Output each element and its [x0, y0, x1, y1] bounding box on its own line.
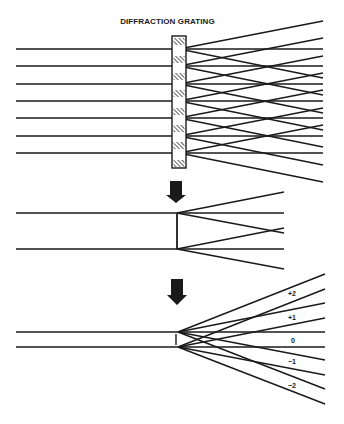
diffracted-ray: [178, 347, 325, 375]
order-label: −2: [288, 382, 296, 389]
diffracted-ray: [177, 192, 284, 213]
double-slit-diagram: [16, 192, 284, 269]
diffracted-ray: [179, 153, 323, 182]
diffracted-ray: [178, 274, 325, 332]
diffracted-ray: [177, 228, 284, 249]
down-arrow-icon: [166, 181, 186, 203]
grating-bar: [174, 108, 185, 115]
grating-bar: [174, 142, 185, 149]
grating-bar: [174, 90, 185, 97]
order-label: +2: [288, 290, 296, 297]
grating-bar: [174, 73, 185, 80]
figure-title: DIFFRACTION GRATING: [100, 17, 235, 26]
diffracted-ray: [179, 84, 323, 113]
grating-bar: [174, 160, 185, 167]
diffracted-ray: [179, 73, 323, 101]
diffracted-ray: [177, 213, 284, 233]
down-arrow-icon: [167, 279, 187, 305]
diffracted-ray: [179, 49, 323, 78]
diffracted-ray: [179, 38, 323, 66]
diffracted-ray: [179, 136, 323, 165]
diffracted-ray: [179, 90, 323, 118]
diffracted-ray: [178, 289, 325, 347]
grating-diagram: [16, 21, 323, 182]
order-label: 0: [291, 337, 295, 344]
diffraction-orders-diagram: [16, 274, 325, 404]
diffraction-grating-block: [172, 36, 186, 168]
grating-bar: [174, 56, 185, 63]
grating-bar: [174, 38, 185, 45]
diffracted-ray: [179, 125, 323, 153]
order-label: +1: [288, 314, 296, 321]
diffracted-ray: [177, 249, 284, 269]
order-label: −1: [288, 358, 296, 365]
grating-bar: [174, 125, 185, 132]
diffracted-ray: [179, 101, 323, 130]
